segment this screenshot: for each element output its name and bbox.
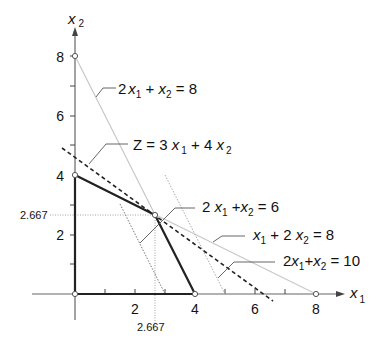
optimum-x1-label: 2.667 xyxy=(137,321,165,333)
x-tick-2: 2 xyxy=(131,301,139,317)
lp-diagram: 2 4 6 8 2 4 6 8 x1 x2 2.667 2.667 xyxy=(0,0,383,346)
objective-line xyxy=(62,148,273,301)
label-x1-2x2-8: x1 + 2 x2 = 8 xyxy=(252,226,334,246)
x-tick-8: 8 xyxy=(312,301,320,317)
leader-c1 xyxy=(96,88,116,97)
x-axis-label: x1 xyxy=(349,284,366,305)
y-tick-6: 6 xyxy=(56,108,64,124)
constraint-line-2x1-x2-10 xyxy=(165,175,225,294)
label-2x1-x2-8: 2x1 + x2 = 8 xyxy=(118,80,197,100)
x-tick-4: 4 xyxy=(191,301,199,317)
leader-lines xyxy=(89,88,275,278)
leader-z xyxy=(89,144,128,164)
x-tick-6: 6 xyxy=(251,301,259,317)
vertex-optimum xyxy=(152,212,157,217)
y-tick-2: 2 xyxy=(56,227,64,243)
x-axis-arrow-icon xyxy=(336,291,345,297)
y-tick-8: 8 xyxy=(56,49,64,65)
vertex-origin xyxy=(72,291,77,296)
label-objective-z: Z = 3 x1 + 4 x2 xyxy=(133,136,232,156)
leader-c3 xyxy=(213,236,245,242)
vertex-8-0 xyxy=(313,291,318,296)
constraint-line-2x1-x2-6 xyxy=(120,204,165,294)
y-axis-label: x2 xyxy=(67,10,85,29)
vertex-0-8 xyxy=(72,53,77,58)
label-2x1-x2-6: 2 x1 +x2 = 6 xyxy=(202,198,279,218)
vertex-4-0 xyxy=(192,291,197,296)
optimum-guides: 2.667 2.667 xyxy=(20,209,165,333)
optimum-x2-label: 2.667 xyxy=(20,209,48,221)
axes: 2 4 6 8 2 4 6 8 x1 x2 xyxy=(32,10,366,320)
y-axis-arrow-icon xyxy=(72,27,78,36)
vertex-0-4 xyxy=(72,172,77,177)
label-2x1-x2-10: 2x1+x2 = 10 xyxy=(283,252,360,272)
y-tick-4: 4 xyxy=(56,168,64,184)
